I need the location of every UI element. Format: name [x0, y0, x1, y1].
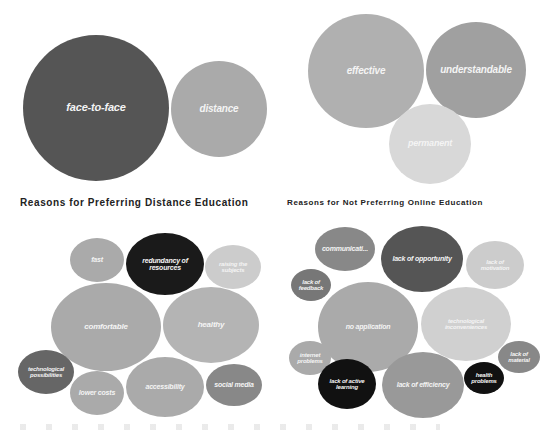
bubble-lack-of-opportunity: lack of opportunity: [381, 226, 463, 292]
bubble-label: comfortable: [84, 323, 128, 331]
bubble-label: health problems: [468, 372, 500, 385]
bubble-label: communicati...: [322, 245, 368, 252]
bubble-communicati: communicati...: [315, 227, 375, 271]
bubble-label: social media: [214, 381, 254, 388]
bubble-label: lower costs: [79, 389, 115, 396]
title-preferring-distance: Reasons for Preferring Distance Educatio…: [20, 197, 249, 208]
bubble-lack-of-feedback: lack of feedback: [291, 269, 331, 301]
bubble-understandable: understandable: [426, 22, 526, 118]
bubble-label: lack of material: [502, 351, 536, 364]
bubble-label: understandable: [440, 65, 512, 76]
bubble-accessibility: accessibility: [126, 357, 204, 417]
bubble-label: redundancy of resources: [134, 257, 196, 272]
bubble-label: lack of feedback: [295, 279, 327, 292]
bubble-label: raising the subjects: [211, 261, 256, 274]
bubble-social-media: social media: [206, 364, 262, 406]
bubble-lack-of-active-learning: lack of active learning: [318, 359, 376, 409]
bubble-label: effective: [347, 66, 386, 77]
bubble-technological-possibilities: technological possibilities: [18, 350, 74, 394]
bubble-healthy: healthy: [163, 287, 259, 363]
bubble-distance: distance: [171, 61, 267, 157]
bubble-lack-of-efficiency: lack of efficiency: [382, 352, 464, 418]
figure-caption-faint: [20, 424, 440, 430]
bubble-label: technological possibilities: [24, 366, 69, 379]
bubble-label: no application: [346, 323, 391, 330]
bubble-label: technological inconveniences: [430, 318, 502, 331]
bubble-raising-the-subjects: raising the subjects: [205, 245, 261, 289]
bubble-label: permanent: [408, 139, 452, 148]
bubble-label: fast: [91, 256, 103, 263]
bubble-label: lack of efficiency: [397, 381, 450, 388]
bubble-permanent: permanent: [389, 104, 471, 184]
bubble-label: distance: [200, 104, 239, 115]
bubble-label: lack of opportunity: [392, 255, 451, 262]
bubble-lack-of-motivation: lack of motivation: [466, 241, 524, 289]
bubble-health-problems: health problems: [464, 362, 504, 394]
bubble-label: internet problems: [293, 352, 327, 365]
bubble-label: face-to-face: [66, 102, 125, 114]
bubble-lack-of-material: lack of material: [498, 341, 540, 373]
bubble-lower-costs: lower costs: [70, 371, 124, 415]
bubble-label: healthy: [198, 321, 225, 329]
bubble-face-to-face: face-to-face: [23, 35, 169, 181]
bubble-fast: fast: [70, 238, 124, 282]
bubble-technological-inconveniences: technological inconveniences: [421, 287, 511, 361]
bubble-label: lack of active learning: [324, 378, 370, 391]
bubble-label: lack of motivation: [472, 259, 518, 272]
bubble-redundancy-of-resources: redundancy of resources: [126, 233, 204, 295]
bubble-label: accessibility: [145, 383, 184, 390]
title-not-preferring-online: Reasons for Not Preferring Online Educat…: [287, 198, 483, 207]
